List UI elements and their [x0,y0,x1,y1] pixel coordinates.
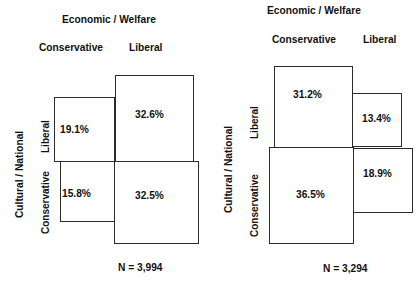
mosaic-cell-value: 32.5% [135,190,164,201]
mosaic-cell-value: 31.2% [293,89,322,100]
column-axis-title: Economic / Welfare [267,5,361,16]
mosaic-panel-left: Economic / Welfare Conservative Liberal … [0,0,209,283]
mosaic-cell-value: 13.4% [362,113,391,124]
mosaic-cell-value: 15.8% [62,188,91,199]
mosaic-cell-value: 36.5% [296,189,325,200]
mosaic-cell-liberal-conservative [274,66,353,148]
sample-size-label: N = 3,294 [323,263,367,274]
column-axis-title: Economic / Welfare [62,14,156,25]
row-axis-title: Cultural / National [223,126,234,213]
mosaic-panel-right: Economic / Welfare Conservative Liberal … [208,0,417,283]
row-label-conservative: Conservative [249,174,260,237]
column-label-conservative: Conservative [39,42,103,53]
mosaic-cell-conservative-liberal [114,161,199,244]
row-label-liberal: Liberal [40,120,51,153]
mosaic-cell-value: 19.1% [60,124,89,135]
mosaic-cell-conservative-liberal [350,148,413,213]
mosaic-cell-value: 32.6% [135,109,164,120]
column-label-liberal: Liberal [129,42,162,53]
row-label-liberal: Liberal [249,106,260,139]
row-axis-title: Cultural / National [14,131,25,218]
row-label-conservative: Conservative [40,171,51,234]
column-label-liberal: Liberal [363,34,396,45]
mosaic-cell-value: 18.9% [363,168,392,179]
sample-size-label: N = 3,994 [118,262,162,273]
column-label-conservative: Conservative [272,34,336,45]
